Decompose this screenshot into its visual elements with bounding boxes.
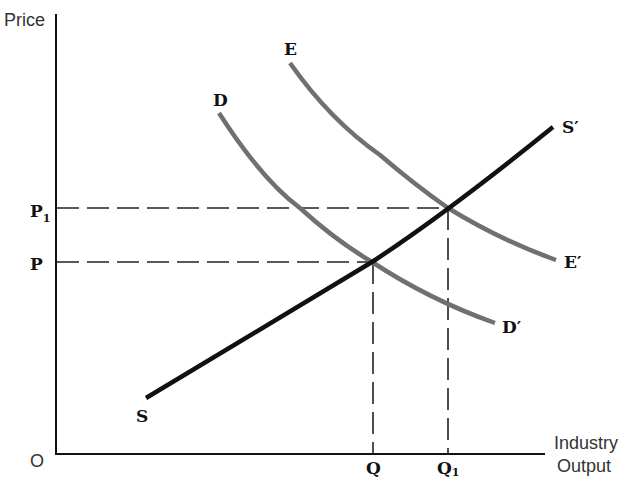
origin-label: O	[30, 451, 44, 471]
supply-end-label: S′	[562, 117, 579, 137]
demand-curve-d	[219, 113, 495, 323]
price-p1-label: P1	[30, 201, 50, 225]
price-p-label: P	[30, 254, 43, 274]
supply-demand-diagram: Price Industry Output O P1 P Q Q1 S S′ D…	[0, 0, 634, 481]
demand-e-start-label: E	[284, 39, 297, 59]
x-axis-label-line1: Industry	[554, 433, 618, 453]
quantity-q1-label: Q1	[437, 458, 459, 479]
demand-d-end-label: D′	[502, 317, 522, 337]
x-axis-label-line2: Output	[557, 456, 611, 476]
quantity-q-label: Q	[366, 458, 381, 478]
supply-start-label: S	[136, 406, 148, 426]
demand-d-start-label: D	[213, 90, 228, 110]
y-axis-label: Price	[4, 10, 45, 30]
demand-e-end-label: E′	[564, 252, 582, 272]
